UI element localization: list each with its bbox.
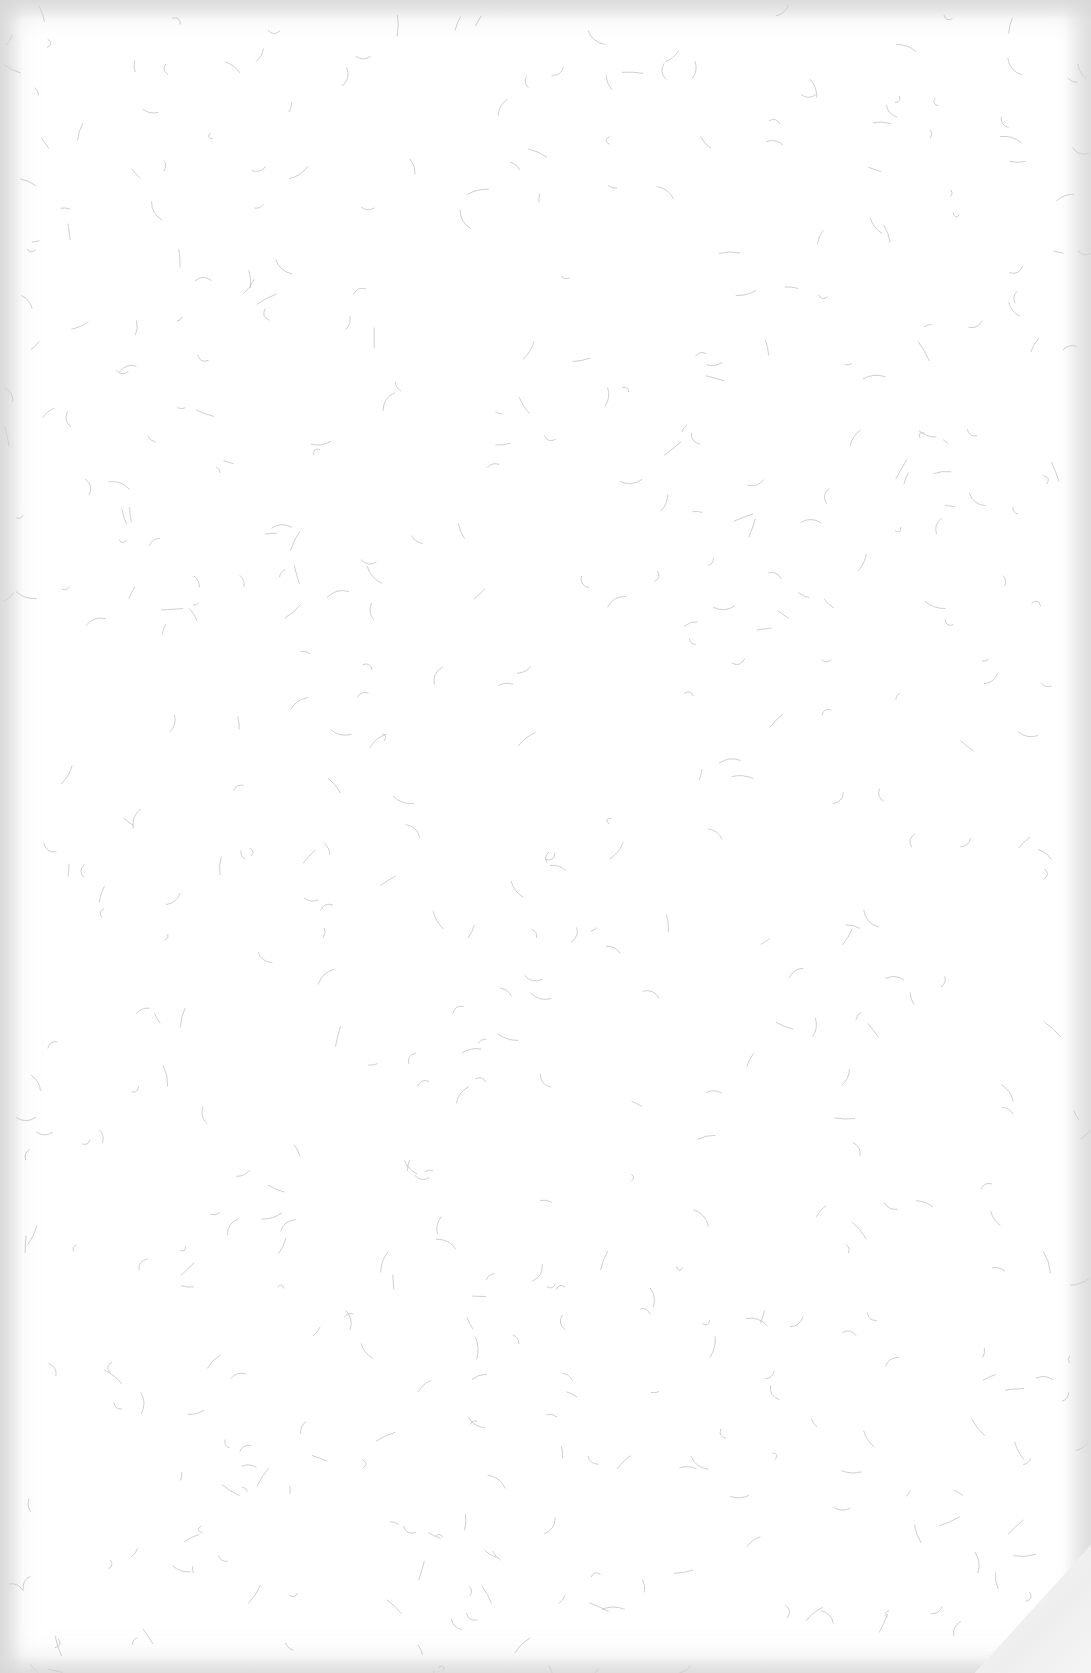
paper-fiber-texture — [0, 0, 1091, 1673]
paper-sheet — [0, 0, 1091, 1673]
